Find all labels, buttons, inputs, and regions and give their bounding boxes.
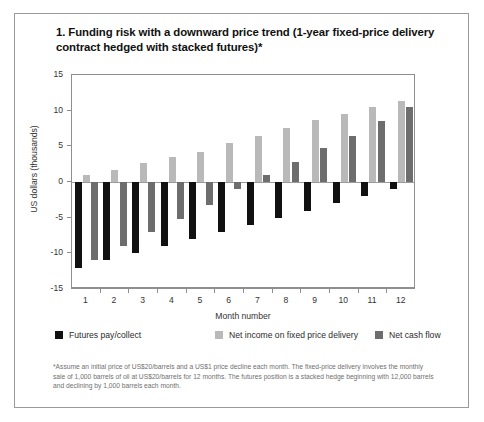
bar-net-income-on-fixed-price-delivery-month-9 xyxy=(312,120,319,182)
bar-futures-pay-collect-month-11 xyxy=(361,182,368,196)
chart-footnote: *Assume an initial price of US$20/barrel… xyxy=(53,362,435,391)
plot-frame xyxy=(71,74,415,288)
y-tick-mark xyxy=(67,217,71,218)
y-tick-label: 5 xyxy=(37,140,63,150)
chart-legend: Futures pay/collectNet income on fixed p… xyxy=(55,330,455,344)
bar-net-cash-flow-month-6 xyxy=(234,182,241,189)
legend-item-net-cash-flow[interactable]: Net cash flow xyxy=(375,330,441,340)
x-tick-mark xyxy=(358,288,359,293)
bar-group xyxy=(275,75,298,287)
x-tick-label: 12 xyxy=(389,295,413,305)
x-tick-label: 7 xyxy=(245,295,269,305)
y-tick-mark xyxy=(67,110,71,111)
bar-net-income-on-fixed-price-delivery-month-4 xyxy=(169,157,176,182)
x-tick-mark xyxy=(186,288,187,293)
bar-net-income-on-fixed-price-delivery-month-3 xyxy=(140,163,147,182)
bar-net-cash-flow-month-11 xyxy=(378,121,385,182)
legend-swatch-icon xyxy=(375,331,383,339)
bar-net-cash-flow-month-3 xyxy=(148,182,155,232)
bar-futures-pay-collect-month-1 xyxy=(75,182,82,268)
bar-group xyxy=(132,75,155,287)
y-tick-mark xyxy=(67,145,71,146)
bar-futures-pay-collect-month-8 xyxy=(275,182,282,218)
legend-swatch-icon xyxy=(55,331,63,339)
x-tick-mark xyxy=(386,288,387,293)
legend-label: Net income on fixed price delivery xyxy=(229,330,358,340)
bar-futures-pay-collect-month-9 xyxy=(304,182,311,211)
x-tick-mark xyxy=(243,288,244,293)
legend-label: Net cash flow xyxy=(389,330,441,340)
x-tick-mark xyxy=(157,288,158,293)
bar-net-cash-flow-month-8 xyxy=(292,162,299,182)
bar-group xyxy=(390,75,413,287)
x-tick-label: 4 xyxy=(159,295,183,305)
bar-net-income-on-fixed-price-delivery-month-8 xyxy=(283,128,290,182)
bar-net-cash-flow-month-7 xyxy=(263,175,270,182)
bar-net-income-on-fixed-price-delivery-month-5 xyxy=(197,152,204,182)
figure-panel: 1. Funding risk with a downward price tr… xyxy=(14,13,469,408)
bar-futures-pay-collect-month-5 xyxy=(189,182,196,239)
x-tick-label: 11 xyxy=(360,295,384,305)
bar-group xyxy=(75,75,98,287)
legend-swatch-icon xyxy=(215,331,223,339)
bar-net-income-on-fixed-price-delivery-month-6 xyxy=(226,143,233,182)
x-tick-label: 8 xyxy=(274,295,298,305)
x-tick-mark xyxy=(300,288,301,293)
bar-group xyxy=(361,75,384,287)
legend-item-futures-pay-collect[interactable]: Futures pay/collect xyxy=(55,330,141,340)
bar-group xyxy=(247,75,270,287)
bar-net-income-on-fixed-price-delivery-month-1 xyxy=(83,175,90,182)
bar-net-income-on-fixed-price-delivery-month-7 xyxy=(255,136,262,182)
bar-net-income-on-fixed-price-delivery-month-11 xyxy=(369,107,376,182)
bar-group xyxy=(218,75,241,287)
y-tick-label: 0 xyxy=(37,176,63,186)
x-tick-label: 3 xyxy=(131,295,155,305)
legend-item-net-income-on-fixed-price-delivery[interactable]: Net income on fixed price delivery xyxy=(215,330,358,340)
bar-net-income-on-fixed-price-delivery-month-12 xyxy=(398,101,405,182)
bar-group xyxy=(333,75,356,287)
bar-futures-pay-collect-month-10 xyxy=(333,182,340,203)
x-tick-mark xyxy=(272,288,273,293)
y-tick-label: -15 xyxy=(37,283,63,293)
x-tick-mark xyxy=(214,288,215,293)
x-tick-mark xyxy=(100,288,101,293)
bar-group xyxy=(103,75,126,287)
x-tick-label: 1 xyxy=(73,295,97,305)
x-tick-label: 2 xyxy=(102,295,126,305)
bar-net-cash-flow-month-1 xyxy=(91,182,98,260)
y-tick-label: 10 xyxy=(37,105,63,115)
bar-net-cash-flow-month-10 xyxy=(349,136,356,182)
bar-futures-pay-collect-month-4 xyxy=(161,182,168,246)
bar-futures-pay-collect-month-2 xyxy=(103,182,110,260)
bar-net-cash-flow-month-5 xyxy=(206,182,213,205)
y-tick-mark xyxy=(67,252,71,253)
bar-futures-pay-collect-month-7 xyxy=(247,182,254,225)
y-tick-label: 15 xyxy=(37,69,63,79)
bar-futures-pay-collect-month-6 xyxy=(218,182,225,232)
bar-net-cash-flow-month-12 xyxy=(406,107,413,182)
bar-net-cash-flow-month-2 xyxy=(120,182,127,246)
bar-group xyxy=(189,75,212,287)
y-tick-label: -10 xyxy=(37,247,63,257)
legend-label: Futures pay/collect xyxy=(69,330,141,340)
bar-group xyxy=(161,75,184,287)
bar-group xyxy=(304,75,327,287)
x-axis-label: Month number xyxy=(71,311,415,321)
x-tick-label: 6 xyxy=(217,295,241,305)
plot-area: US dollars (thousands) 151050-5-10-15 12… xyxy=(15,14,470,409)
bar-futures-pay-collect-month-3 xyxy=(132,182,139,253)
x-tick-label: 9 xyxy=(303,295,327,305)
bar-futures-pay-collect-month-12 xyxy=(390,182,397,189)
x-tick-label: 10 xyxy=(331,295,355,305)
bar-net-income-on-fixed-price-delivery-month-2 xyxy=(111,170,118,182)
x-tick-mark xyxy=(128,288,129,293)
y-axis-ticks: 151050-5-10-15 xyxy=(37,74,63,288)
bar-net-cash-flow-month-4 xyxy=(177,182,184,219)
y-tick-mark xyxy=(67,181,71,182)
bar-net-cash-flow-month-9 xyxy=(320,148,327,182)
bar-net-income-on-fixed-price-delivery-month-10 xyxy=(341,114,348,182)
x-tick-mark xyxy=(329,288,330,293)
x-tick-label: 5 xyxy=(188,295,212,305)
y-tick-label: -5 xyxy=(37,212,63,222)
